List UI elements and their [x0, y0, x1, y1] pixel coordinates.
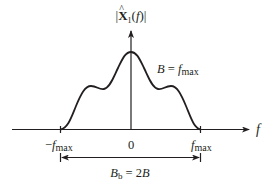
hat-accent: ^	[119, 3, 124, 14]
bandwidth-label: B = fmax	[157, 62, 199, 77]
baseband-bandwidth-label: Bb = 2B	[110, 166, 150, 181]
spectrum-diagram: |X1(f)| ^ f B = fmax −fmax 0 fmax Bb = 2…	[0, 0, 273, 187]
x-axis-label: f	[256, 122, 262, 137]
tick-label-pos-fmax: fmax	[191, 138, 212, 153]
tick-label-neg-fmax: −fmax	[45, 138, 73, 153]
tick-label-zero: 0	[128, 138, 134, 152]
